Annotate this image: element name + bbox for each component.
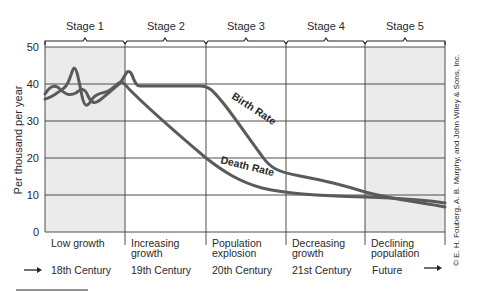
stage-brackets: [45, 38, 445, 45]
period-stage-1: 18th Century: [51, 264, 112, 276]
stage-1-shade: [45, 47, 125, 232]
y-tick-0: 0: [33, 226, 39, 238]
stage-4-desc-2: growth: [292, 247, 324, 259]
stage-2-desc-2: growth: [131, 247, 163, 259]
stage-1-desc: Low growth: [51, 237, 105, 249]
stage-3-desc-2: explosion: [212, 247, 257, 259]
y-tick-50: 50: [27, 41, 39, 53]
y-tick-20: 20: [27, 152, 39, 164]
stage-1-title: Stage 1: [66, 20, 104, 32]
y-tick-30: 30: [27, 115, 39, 127]
period-stage-2: 19th Century: [131, 264, 192, 276]
period-stage-3: 20th Century: [212, 264, 273, 276]
period-stage-5: Future: [372, 264, 403, 276]
stage-3-title: Stage 3: [227, 20, 265, 32]
y-tick-labels: 50 40 30 20 10 0: [27, 41, 39, 238]
stage-titles: Stage 1 Stage 2 Stage 3 Stage 4 Stage 5: [66, 20, 424, 32]
stage-5-desc-2: population: [371, 247, 420, 259]
copyright-credit: © E. H. Fouberg, A. B. Murphy, and John …: [452, 54, 461, 266]
y-axis-label: Per thousand per year: [12, 85, 24, 194]
stage-5-title: Stage 5: [386, 20, 424, 32]
y-tick-40: 40: [27, 78, 39, 90]
stage-4-title: Stage 4: [307, 20, 345, 32]
period-stage-4: 21st Century: [292, 264, 352, 276]
stage-descriptions: Low growth Increasing growth Population …: [51, 237, 420, 259]
stage-2-title: Stage 2: [147, 20, 185, 32]
left-arrow-icon: [24, 267, 42, 273]
y-tick-10: 10: [27, 189, 39, 201]
period-labels: 18th Century 19th Century 20th Century 2…: [51, 264, 403, 276]
right-arrow-icon: [424, 265, 442, 271]
demographic-transition-chart: Birth Rate Death Rate 50 40 30 20 10 0 P…: [0, 0, 477, 292]
